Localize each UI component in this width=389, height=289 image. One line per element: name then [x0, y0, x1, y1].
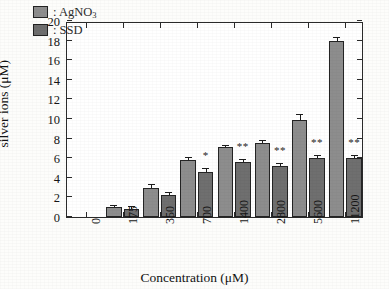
legend-label-agno3: : AgNO3 [53, 6, 97, 19]
y-tick-label-6: 6 [34, 153, 60, 166]
bar-350-series0 [143, 188, 159, 217]
legend-item-agno3: : AgNO3 [33, 6, 97, 19]
y-tick-0 [67, 216, 72, 217]
error-cap-700-series1 [202, 168, 209, 169]
error-cap-11200-series0 [333, 37, 340, 38]
x-tick-175 [123, 23, 124, 28]
y-tick-10 [357, 118, 362, 119]
x-tick-label-0: 0 [90, 218, 102, 224]
y-tick-16 [67, 59, 72, 60]
figure: ********* 02468101214161820 017535070014… [0, 0, 389, 289]
significance-marker-11200: ** [348, 137, 360, 148]
error-bar-11200-series1 [354, 156, 355, 158]
error-cap-1400-series1 [239, 159, 246, 160]
y-tick-label-12: 12 [34, 94, 60, 107]
x-tick-label-5600: 5600 [312, 200, 324, 224]
x-tick-350 [160, 23, 161, 28]
error-bar-700-series0 [188, 158, 189, 160]
bar-5600-series0 [292, 120, 308, 218]
y-tick-label-16: 16 [34, 55, 60, 68]
error-cap-11200-series1 [351, 155, 358, 156]
y-tick-18 [357, 40, 362, 41]
error-bar-350-series0 [151, 185, 152, 188]
bar-700-series0 [180, 160, 196, 217]
y-tick-label-4: 4 [34, 173, 60, 186]
error-bar-1400-series0 [225, 146, 226, 148]
significance-marker-700: * [203, 150, 209, 161]
error-bar-2800-series1 [280, 164, 281, 166]
y-tick-12 [357, 98, 362, 99]
plot-frame: ********* [66, 22, 363, 218]
legend-label-agno3-text: : AgNO [53, 5, 92, 19]
x-tick-11200 [345, 23, 346, 28]
y-tick-label-2: 2 [34, 192, 60, 205]
bar-11200-series0 [329, 41, 345, 217]
y-axis-title: silver ions (μM) [0, 60, 12, 147]
legend-swatch-ssd [33, 24, 48, 36]
bar-1400-series0 [218, 147, 234, 217]
error-bar-11200-series0 [337, 38, 338, 41]
x-tick-label-2800: 2800 [275, 200, 287, 224]
error-cap-2800-series1 [276, 163, 283, 164]
y-tick-2 [67, 196, 72, 197]
error-bar-1400-series1 [243, 160, 244, 162]
x-tick-label-350: 350 [164, 206, 176, 224]
significance-marker-1400: ** [237, 141, 249, 152]
x-tick-1400 [234, 23, 235, 28]
x-tick-label-700: 700 [201, 206, 213, 224]
error-cap-350-series0 [148, 184, 155, 185]
legend-label-ssd: : SSD [53, 24, 83, 37]
error-bar-5600-series1 [317, 156, 318, 158]
bar-2800-series0 [255, 143, 271, 217]
y-tick-label-0: 0 [34, 212, 60, 225]
y-tick-10 [67, 118, 72, 119]
y-tick-12 [67, 98, 72, 99]
y-tick-8 [67, 138, 72, 139]
y-tick-16 [357, 59, 362, 60]
y-tick-14 [357, 79, 362, 80]
error-cap-2800-series0 [259, 140, 266, 141]
x-tick-label-175: 175 [127, 206, 139, 224]
error-cap-175-series0 [110, 205, 117, 206]
legend-swatch-agno3 [33, 6, 48, 18]
y-tick-label-10: 10 [34, 114, 60, 127]
x-tick-2800 [271, 23, 272, 28]
y-tick-20 [357, 20, 362, 21]
significance-marker-5600: ** [311, 137, 323, 148]
error-cap-350-series1 [165, 192, 172, 193]
legend-item-ssd: : SSD [33, 24, 97, 37]
error-bar-5600-series0 [300, 115, 301, 119]
x-tick-5600 [308, 23, 309, 28]
y-tick-label-8: 8 [34, 134, 60, 147]
error-bar-2800-series0 [262, 141, 263, 143]
y-tick-14 [67, 79, 72, 80]
x-tick-label-11200: 11200 [349, 194, 361, 224]
bar-175-series0 [106, 207, 122, 217]
x-tick-0 [86, 212, 87, 217]
x-tick-label-1400: 1400 [238, 200, 250, 224]
error-bar-175-series0 [114, 206, 115, 207]
significance-marker-2800: ** [274, 145, 286, 156]
plot-area: ********* [67, 23, 362, 217]
legend: : AgNO3 : SSD [33, 6, 97, 41]
y-tick-4 [67, 177, 72, 178]
error-bar-350-series1 [169, 193, 170, 195]
error-bar-700-series1 [206, 169, 207, 171]
error-cap-5600-series1 [314, 155, 321, 156]
legend-label-agno3-subscript: 3 [92, 10, 96, 20]
error-cap-700-series0 [185, 157, 192, 158]
x-tick-700 [197, 23, 198, 28]
error-cap-1400-series0 [222, 145, 229, 146]
y-tick-6 [67, 157, 72, 158]
x-axis-title: Concentration (μM) [0, 270, 389, 286]
error-cap-5600-series0 [296, 114, 303, 115]
y-tick-label-14: 14 [34, 75, 60, 88]
